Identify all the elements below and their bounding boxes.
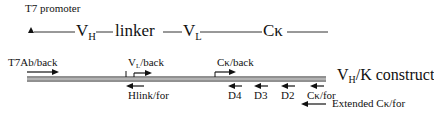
t7ab-back-arrow-icon <box>52 69 59 75</box>
primer-d3: D3 <box>254 89 267 101</box>
primer-hlink-for: Hlink/for <box>128 89 169 101</box>
vl-back-arrow-icon <box>145 70 152 76</box>
construct-label: VH/K construct <box>337 66 434 85</box>
primer-vl-back: VL/back <box>128 56 164 69</box>
segment-vl: VL <box>183 21 202 42</box>
primer-t7ab-back: T7Ab/back <box>8 56 57 68</box>
ck-back-arrow-icon <box>229 69 236 75</box>
segment-vh: VH <box>76 21 96 42</box>
promoter-triangle-icon <box>28 27 34 33</box>
segment-linker: linker <box>115 21 155 41</box>
primer-extended-ck-for: Extended Cκ/for <box>332 97 405 109</box>
extended-ck-for-arrow-icon <box>301 101 308 107</box>
primer-ck-back: Cκ/back <box>217 56 254 68</box>
primer-d4: D4 <box>228 89 241 101</box>
primer-d2: D2 <box>281 89 294 101</box>
segment-ck: Cκ <box>263 21 283 41</box>
promoter-label: T7 promoter <box>25 2 80 14</box>
